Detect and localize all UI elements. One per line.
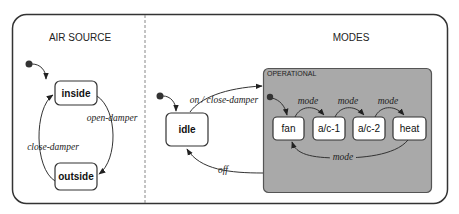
transition-label-close-damper: close-damper (27, 142, 79, 152)
transition-label-mode-fan-ac1: mode (298, 96, 319, 106)
transition-label-off: off (218, 165, 229, 175)
state-idle-label: idle (178, 124, 196, 135)
state-outside[interactable]: outside (55, 163, 97, 190)
transition-label-mode-heat-fan: mode (333, 152, 354, 162)
transition-label-on-close-damper: on / close-damper (190, 95, 259, 105)
state-idle[interactable]: idle (166, 113, 208, 146)
state-inside[interactable]: inside (55, 81, 97, 105)
state-ac2-label: a/c-2 (358, 123, 381, 134)
state-heat[interactable]: heat (393, 117, 426, 140)
region-label-air-source: AIR SOURCE (49, 32, 112, 43)
state-heat-label: heat (400, 123, 420, 134)
state-outside-label: outside (58, 171, 94, 182)
transition-label-open-damper: open-damper (87, 113, 138, 123)
state-ac1[interactable]: a/c-1 (313, 117, 345, 140)
transition-label-mode-ac1-ac2: mode (338, 96, 359, 106)
region-label-modes: MODES (333, 32, 370, 43)
initial-state-operational (267, 94, 273, 100)
composite-state-label: OPERATIONAL (267, 70, 316, 77)
state-diagram: AIR SOURCE MODES inside outside open-dam… (0, 0, 459, 214)
state-ac2[interactable]: a/c-2 (353, 117, 385, 140)
state-fan[interactable]: fan (273, 117, 304, 140)
initial-state-modes (157, 93, 164, 100)
state-inside-label: inside (62, 88, 91, 99)
transition-label-mode-ac2-heat: mode (378, 96, 399, 106)
state-ac1-label: a/c-1 (318, 123, 341, 134)
initial-state-air-source (26, 61, 33, 68)
state-fan-label: fan (282, 123, 296, 134)
